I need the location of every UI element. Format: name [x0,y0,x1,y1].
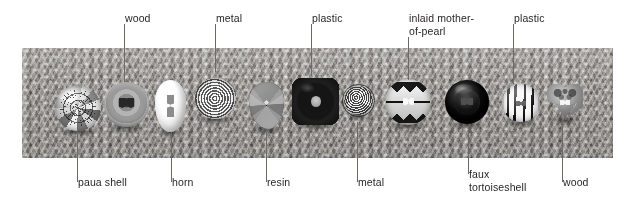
leader-line-horn [171,132,172,182]
button-body [502,84,540,122]
leader-line-plastic-top-right [513,24,514,84]
button-rim [342,84,374,116]
button-metal-dome [344,86,373,115]
button-horn-oval [155,80,186,132]
button-materials-figure: wood metal plastic inlaid mother- of-pea… [0,0,637,206]
button-highlight [502,84,540,122]
callout-label-resin: resin [263,176,290,189]
leader-line-wood-bottom [562,122,563,182]
leader-line-metal-top [215,24,216,72]
callout-label-horn: horn [168,176,193,189]
button-body [249,82,284,129]
button-wood-heart [547,84,583,120]
button-holes [403,98,413,104]
button-hole [311,96,321,107]
button-body [445,80,489,124]
button-body [155,80,186,132]
button-plastic-quatrefoil [292,78,339,125]
callout-label-plastic-top-right: plastic [510,12,545,25]
callout-label-mother-of-pearl: inlaid mother- of-pearl [405,12,474,37]
mosaic-facets [59,89,98,128]
callout-label-wood-bottom: wood [559,176,589,189]
button-paua-shell [55,85,101,131]
button-resin-leaf [249,82,284,129]
callout-label-plastic-top-left: plastic [308,12,343,25]
button-metal-spiral [195,78,236,119]
button-plastic-striped [502,84,540,122]
callout-label-metal-top: metal [212,12,242,25]
button-highlight [455,84,474,95]
button-holes [119,98,133,108]
button-holes [560,100,570,105]
callout-label-paua-shell: paua shell [74,176,127,189]
callout-label-faux-tortoiseshell: faux tortoiseshell [465,168,526,193]
leader-line-wood-top [124,24,125,82]
button-body [385,79,431,125]
leader-line-resin [266,130,267,182]
button-holes [167,95,173,118]
button-holes [262,99,270,107]
button-holes [461,98,473,105]
notched-rim [194,77,237,120]
leader-line-paua-shell [77,122,78,182]
leader-line-metal-bottom [357,122,358,182]
callout-label-metal-bottom: metal [354,176,384,189]
button-faux-tortoiseshell [445,80,489,124]
leader-line-faux-tortoiseshell [468,126,469,174]
leader-line-mother-of-pearl [408,37,409,80]
leader-line-plastic-top-left [311,24,312,76]
button-mother-of-pearl [385,79,431,125]
button-wood-round [104,82,149,127]
callout-label-wood-top: wood [121,12,151,25]
button-body [55,85,101,131]
button-body [104,82,149,127]
